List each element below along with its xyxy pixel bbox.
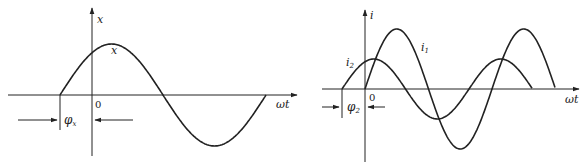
left-phase-label: φx (64, 113, 76, 128)
left-curve-label: x (111, 44, 118, 57)
right-diagram: i i1 i2 0 ωt φ2 (322, 9, 579, 162)
left-diagram: x x 0 ωt φx (8, 8, 297, 156)
right-x-axis-label: ωt (565, 93, 579, 106)
right-phase-label: φ2 (347, 100, 360, 115)
left-x-axis-label: ωt (276, 98, 290, 111)
right-y-axis-label: i (370, 9, 374, 22)
i2-label: i2 (346, 56, 355, 70)
diagram-canvas: x x 0 ωt φx i i1 i2 0 ωt φ2 (0, 0, 588, 168)
left-y-axis-label: x (97, 13, 104, 26)
i1-label: i1 (421, 41, 429, 55)
right-origin-label: 0 (369, 92, 375, 103)
left-origin-label: 0 (95, 99, 101, 110)
